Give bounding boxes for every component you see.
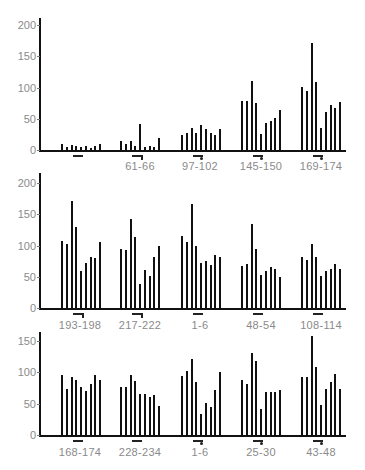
bar [85, 391, 87, 435]
group-marker [313, 440, 323, 442]
bar [270, 392, 272, 435]
group-marker [132, 440, 142, 442]
bar [260, 409, 262, 435]
bar [139, 394, 141, 435]
bar [153, 395, 155, 435]
y-tick-label: 50 [0, 399, 36, 410]
bar [144, 394, 146, 435]
bar [246, 384, 248, 435]
bar [306, 377, 308, 435]
y-axis [39, 332, 41, 437]
bar [71, 377, 73, 435]
chart-panel-3: 0 50 100 150 168-174 228-234 1-6 25-30 4… [0, 0, 365, 470]
group-label: 25-30 [231, 446, 291, 458]
bar [301, 377, 303, 435]
bar [200, 414, 202, 435]
bar [158, 406, 160, 435]
y-tick-label: 150 [0, 336, 36, 347]
bar [94, 375, 96, 435]
group-marker [253, 440, 263, 442]
bar [265, 392, 267, 435]
group-label: 1-6 [170, 446, 230, 458]
group-marker [193, 440, 203, 442]
bar [219, 372, 221, 435]
bar [75, 380, 77, 435]
bar [251, 353, 253, 435]
bar [149, 397, 151, 435]
bar [125, 387, 127, 435]
bar [181, 376, 183, 435]
group-label: 168-174 [50, 446, 110, 458]
bar [311, 336, 313, 435]
y-tick-label: 0 [0, 430, 36, 441]
bar [334, 374, 336, 435]
x-axis [39, 435, 346, 437]
group-label: 228-234 [110, 446, 170, 458]
bar [80, 387, 82, 435]
bar [214, 390, 216, 435]
bar [330, 382, 332, 435]
bar [255, 361, 257, 435]
bar [186, 371, 188, 435]
bar [241, 380, 243, 435]
bar [325, 389, 327, 435]
y-tick-label: 100 [0, 367, 36, 378]
bar [99, 380, 101, 435]
bar [130, 375, 132, 435]
bar [274, 392, 276, 435]
bar [134, 381, 136, 435]
bar [61, 375, 63, 435]
bar [90, 384, 92, 435]
bar [205, 403, 207, 435]
bar [195, 382, 197, 435]
bar [339, 389, 341, 435]
group-label: 43-48 [291, 446, 351, 458]
bar [191, 359, 193, 435]
bar [120, 387, 122, 435]
bar [210, 407, 212, 435]
bar [279, 390, 281, 435]
bar [66, 389, 68, 435]
bar [320, 405, 322, 435]
group-marker [73, 440, 83, 442]
bar [315, 367, 317, 435]
